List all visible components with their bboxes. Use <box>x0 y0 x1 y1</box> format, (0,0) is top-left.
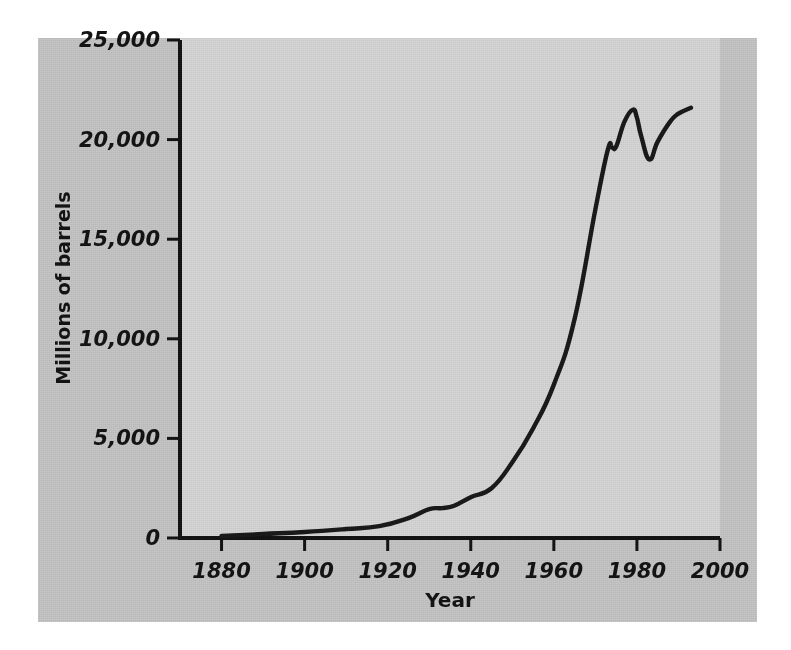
y-tick-label: 0 <box>145 526 160 550</box>
y-tick-label: 25,000 <box>79 28 160 52</box>
x-tick-label: 1880 <box>192 559 250 583</box>
x-tick-labels: 1880190019201940196019802000 <box>192 559 749 583</box>
y-axis-title: Millions of barrels <box>52 191 74 384</box>
y-tick-label: 5,000 <box>94 426 160 450</box>
y-tick-label: 10,000 <box>79 327 160 351</box>
x-tick-label: 1900 <box>275 559 333 583</box>
data-line-series <box>222 108 691 536</box>
x-tick-label: 1960 <box>525 559 583 583</box>
x-tick-label: 1940 <box>442 559 500 583</box>
x-axis-title: Year <box>424 588 475 612</box>
axis-lines <box>180 40 720 538</box>
chart-svg: 05,00010,00015,00020,00025,000 188019001… <box>38 38 757 622</box>
y-tick-label: 20,000 <box>79 128 160 152</box>
y-tick-labels: 05,00010,00015,00020,00025,000 <box>79 28 160 550</box>
chart-figure: 05,00010,00015,00020,00025,000 188019001… <box>38 38 757 622</box>
x-tick-label: 1980 <box>608 559 666 583</box>
x-tick-label: 2000 <box>691 559 749 583</box>
x-tick-label: 1920 <box>358 559 416 583</box>
y-tick-label: 15,000 <box>79 227 160 251</box>
